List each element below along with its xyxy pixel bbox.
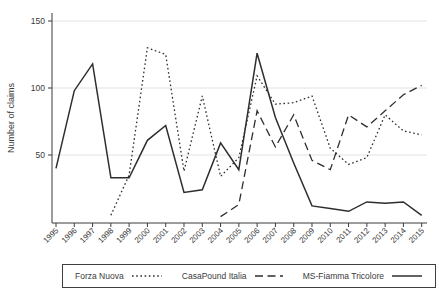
svg-text:2000: 2000: [133, 226, 152, 245]
svg-text:2010: 2010: [316, 226, 335, 245]
svg-text:1996: 1996: [60, 226, 79, 245]
solid-line-sample-icon: [391, 273, 423, 279]
legend-label-forza-nuova: Forza Nuova: [75, 271, 124, 281]
svg-text:1997: 1997: [78, 226, 97, 245]
legend-item-casapound-italia: CasaPound Italia: [182, 271, 284, 281]
claims-line-chart: 5010015019951996199719981999200020012002…: [0, 0, 439, 260]
svg-text:2002: 2002: [169, 226, 188, 245]
svg-text:2012: 2012: [352, 226, 371, 245]
svg-text:100: 100: [31, 83, 45, 93]
dotted-line-sample-icon: [131, 273, 163, 279]
svg-text:2006: 2006: [243, 226, 262, 245]
legend-label-casapound-italia: CasaPound Italia: [182, 271, 247, 281]
legend: Forza Nuova CasaPound Italia MS-Fiamma T…: [62, 264, 436, 288]
line-chart-figure: 5010015019951996199719981999200020012002…: [0, 0, 439, 301]
svg-text:2003: 2003: [188, 226, 207, 245]
svg-text:2015: 2015: [407, 226, 426, 245]
svg-text:2007: 2007: [261, 226, 280, 245]
legend-label-ms-fiamma-tricolore: MS-Fiamma Tricolore: [303, 271, 384, 281]
svg-text:2013: 2013: [371, 226, 390, 245]
y-axis-title: Number of claims: [6, 82, 16, 153]
legend-item-forza-nuova: Forza Nuova: [75, 271, 163, 281]
svg-text:2005: 2005: [224, 226, 243, 245]
data-series-lines: [56, 48, 422, 217]
dashed-line-sample-icon: [254, 273, 284, 279]
svg-text:2008: 2008: [279, 226, 298, 245]
svg-text:150: 150: [31, 16, 45, 26]
svg-text:1995: 1995: [41, 226, 60, 245]
svg-text:1999: 1999: [115, 226, 134, 245]
legend-item-ms-fiamma-tricolore: MS-Fiamma Tricolore: [303, 271, 423, 281]
svg-text:1998: 1998: [96, 226, 115, 245]
svg-text:2009: 2009: [297, 226, 316, 245]
axes: 5010015019951996199719981999200020012002…: [31, 13, 427, 245]
gridlines: [52, 21, 427, 155]
svg-text:2014: 2014: [389, 226, 408, 245]
svg-text:2004: 2004: [206, 226, 225, 245]
svg-text:2011: 2011: [334, 226, 353, 245]
svg-text:2001: 2001: [151, 226, 170, 245]
svg-text:50: 50: [36, 150, 46, 160]
